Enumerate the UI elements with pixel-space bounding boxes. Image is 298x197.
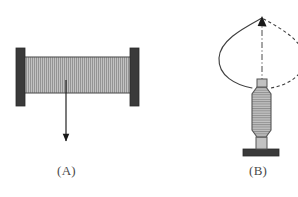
stem (256, 137, 267, 149)
top-cap (257, 79, 267, 87)
hatched-beam (20, 57, 135, 93)
hatched-spindle-body (252, 87, 271, 137)
right-fixed-support (130, 48, 139, 106)
base-block (243, 149, 279, 156)
apex-arrowhead (258, 16, 267, 27)
solid-deflection-curve (219, 18, 262, 88)
left-fixed-support (16, 48, 25, 106)
panel-a-group (16, 48, 139, 141)
panel-a-caption: (A) (57, 163, 76, 179)
figure-root: (A) (B) (0, 0, 298, 197)
panel-b-group (219, 16, 298, 156)
dashed-deflection-curve (262, 18, 298, 88)
panel-b-caption: (B) (249, 163, 267, 179)
